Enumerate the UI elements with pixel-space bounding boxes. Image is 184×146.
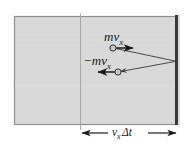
incoming-momentum-label-sub: x [119,37,123,47]
incoming-momentum-label: mvx [104,30,123,46]
distance-label: vxΔt [112,127,132,141]
outgoing-momentum-label-main: −mv [83,53,107,68]
outgoing-momentum-label: −mvx [83,54,111,70]
incoming-momentum-label-main: mv [104,29,119,44]
distance-label-suffix: Δt [122,126,132,138]
figure-canvas [0,0,184,146]
outgoing-momentum-label-sub: x [107,61,111,71]
outgoing-particle [115,69,121,75]
gas-container-box [15,17,178,125]
distance-label-sub: x [117,132,120,141]
physics-figure: mvx −mvx vxΔt [0,0,184,146]
